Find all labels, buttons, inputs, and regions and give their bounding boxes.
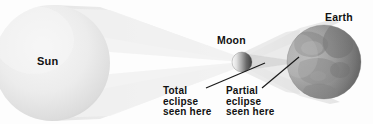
label-sun: Sun (37, 56, 58, 67)
label-total-eclipse: Total eclipse seen here (163, 86, 212, 118)
label-partial-eclipse: Partial eclipse seen here (226, 86, 275, 118)
eclipse-diagram: Sun Moon Earth Total eclipse seen here P… (0, 0, 373, 124)
label-moon: Moon (217, 35, 246, 46)
moon-body (232, 52, 252, 72)
label-earth: Earth (325, 12, 353, 23)
